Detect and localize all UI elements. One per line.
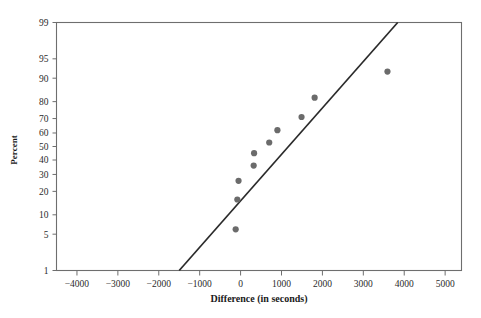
x-tick-label: −3000	[106, 279, 131, 289]
y-tick-label: 99	[39, 18, 49, 28]
data-point-marker	[234, 196, 240, 202]
data-point-marker	[298, 114, 304, 120]
y-tick-label: 95	[39, 54, 49, 64]
y-tick-label: 40	[39, 155, 49, 165]
y-tick-label: 90	[39, 74, 49, 84]
y-axis: 151020304050607080909599	[39, 18, 57, 276]
y-tick-label: 60	[39, 128, 49, 138]
x-tick-label: −1000	[188, 279, 213, 289]
x-tick-label: 3000	[354, 279, 373, 289]
x-axis-title: Difference (in seconds)	[210, 293, 307, 305]
data-points	[233, 69, 391, 233]
x-tick-label: 5000	[436, 279, 455, 289]
y-tick-label: 30	[39, 170, 49, 180]
y-tick-label: 50	[39, 142, 49, 152]
x-axis: −4000−3000−2000−100001000200030004000500…	[65, 271, 455, 289]
data-point-marker	[312, 95, 318, 101]
y-tick-label: 10	[39, 210, 49, 220]
x-tick-label: −2000	[147, 279, 172, 289]
y-tick-label: 1	[44, 266, 49, 276]
reference-line	[179, 23, 397, 271]
plot-border	[57, 23, 462, 271]
normal-reference-line	[179, 23, 397, 271]
data-point-marker	[233, 226, 239, 232]
x-tick-label: −4000	[65, 279, 90, 289]
data-point-marker	[251, 150, 257, 156]
plot-frame	[57, 23, 462, 271]
data-point-marker	[266, 139, 272, 145]
y-tick-label: 20	[39, 187, 49, 197]
data-point-marker	[251, 163, 257, 169]
y-tick-label: 5	[44, 230, 49, 240]
x-tick-label: 2000	[313, 279, 332, 289]
x-tick-label: 0	[238, 279, 243, 289]
x-tick-label: 1000	[272, 279, 291, 289]
normal-probability-plot-figure: 151020304050607080909599 −4000−3000−2000…	[0, 0, 481, 318]
chart-canvas: 151020304050607080909599 −4000−3000−2000…	[0, 0, 481, 318]
y-tick-label: 80	[39, 97, 49, 107]
y-axis-title: Percent	[9, 135, 19, 164]
data-point-marker	[274, 127, 280, 133]
data-point-marker	[384, 69, 390, 75]
data-point-marker	[235, 178, 241, 184]
x-tick-label: 4000	[395, 279, 414, 289]
y-tick-label: 70	[39, 114, 49, 124]
